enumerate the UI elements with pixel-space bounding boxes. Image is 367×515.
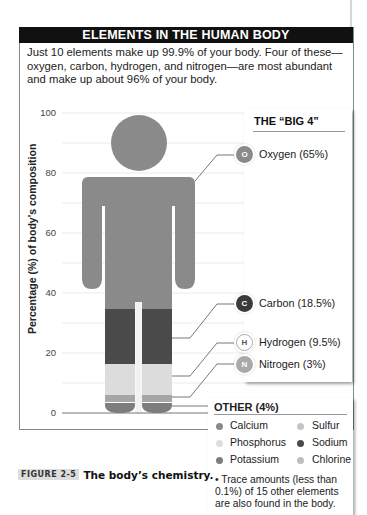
chlorine-label: Chlorine bbox=[312, 453, 351, 465]
y-tick-100: 100 bbox=[26, 107, 56, 118]
carbon-label: Carbon (18.5%) bbox=[259, 297, 335, 309]
y-tick-0: 0 bbox=[26, 407, 56, 418]
chlorine-dot-icon bbox=[297, 457, 304, 464]
figure-caption-text: The body’s chemistry. bbox=[83, 469, 213, 481]
sodium-dot-icon bbox=[297, 440, 304, 447]
hydrogen-label: Hydrogen (9.5%) bbox=[259, 336, 341, 348]
calcium-dot-icon bbox=[216, 423, 223, 430]
sodium-label: Sodium bbox=[312, 436, 348, 448]
nitrogen-badge-icon: N bbox=[236, 356, 253, 373]
sulfur-label: Sulfur bbox=[312, 419, 339, 431]
other-divider bbox=[214, 414, 347, 415]
other-title: OTHER (4%) bbox=[214, 401, 279, 413]
phosphorus-dot-icon bbox=[216, 440, 223, 447]
oxygen-badge-icon: O bbox=[236, 146, 253, 163]
potassium-dot-icon bbox=[216, 457, 223, 464]
oxygen-label: Oxygen (65%) bbox=[259, 148, 328, 160]
y-tick-80: 80 bbox=[26, 167, 56, 178]
big4-divider bbox=[253, 131, 345, 132]
calcium-label: Calcium bbox=[230, 419, 268, 431]
other-legend-panel: OTHER (4%) Calcium Sulfur Phosphorus Sod… bbox=[208, 398, 353, 515]
phosphorus-label: Phosphorus bbox=[230, 436, 286, 448]
figure-caption: FIGURE 2-5The body’s chemistry. bbox=[18, 464, 213, 483]
figure-head bbox=[111, 115, 167, 171]
y-tick-60: 60 bbox=[26, 227, 56, 238]
trace-elements-note: • Trace amounts (less than 0.1%) of 15 o… bbox=[215, 474, 351, 510]
y-tick-40: 40 bbox=[26, 287, 56, 298]
y-tick-20: 20 bbox=[26, 347, 56, 358]
nitrogen-label: Nitrogen (3%) bbox=[259, 358, 326, 370]
carbon-badge-icon: C bbox=[236, 295, 253, 312]
hydrogen-badge-icon: H bbox=[236, 334, 253, 351]
y-axis-label: Percentage (%) of body's composition bbox=[26, 194, 38, 334]
sulfur-dot-icon bbox=[297, 423, 304, 430]
potassium-label: Potassium bbox=[230, 453, 279, 465]
big4-title: THE “BIG 4” bbox=[254, 115, 319, 127]
figure-number: FIGURE 2-5 bbox=[18, 469, 79, 480]
